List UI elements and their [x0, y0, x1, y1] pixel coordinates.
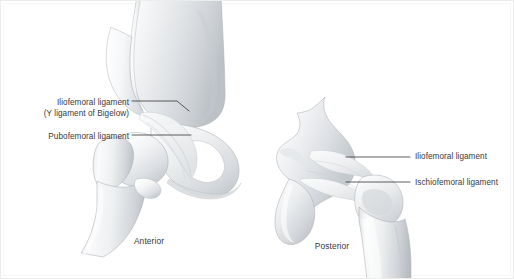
anterior-hip-view — [81, 1, 241, 257]
label-anterior-y-ligament-of-bigelow: (Y ligament of Bigelow) — [1, 108, 129, 119]
caption-anterior-view: Anterior — [127, 236, 171, 246]
posterior-hip-view — [275, 97, 411, 279]
label-posterior-iliofemoral-ligament: Iliofemoral ligament — [415, 151, 487, 162]
anatomy-figure: Iliofemoral ligament (Y ligament of Bige… — [0, 0, 514, 279]
caption-posterior-view: Posterior — [309, 241, 355, 251]
label-anterior-pubofemoral-ligament: Pubofemoral ligament — [1, 131, 129, 142]
label-posterior-ischiofemoral-ligament: Ischiofemoral ligament — [415, 177, 498, 188]
label-anterior-iliofemoral-ligament: Iliofemoral ligament — [1, 97, 129, 108]
